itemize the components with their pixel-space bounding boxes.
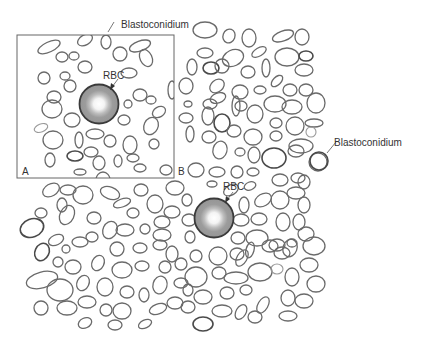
panel-a-blastoconidium-leader — [108, 22, 114, 32]
panel-a-rbc — [80, 85, 119, 124]
panel-b-blastoconidium-label: Blastoconidium — [334, 137, 402, 148]
blastoconidia-illustration: Blastoconidium RBC Blastoconidium RBC A … — [0, 0, 421, 347]
panel-a-letter: A — [22, 166, 29, 177]
panel-b-letter: B — [178, 166, 185, 177]
panel-b-rbc — [195, 199, 234, 238]
panel-b-cells — [179, 22, 327, 331]
panel-a-rbc-label: RBC — [103, 70, 124, 81]
panel-b-lower-left-cells — [18, 180, 195, 330]
panel-b-blastoconidium-callout-cell — [310, 152, 328, 170]
panel-a-blastoconidium-label: Blastoconidium — [121, 19, 189, 30]
panel-b-rbc-label: RBC — [223, 181, 244, 192]
